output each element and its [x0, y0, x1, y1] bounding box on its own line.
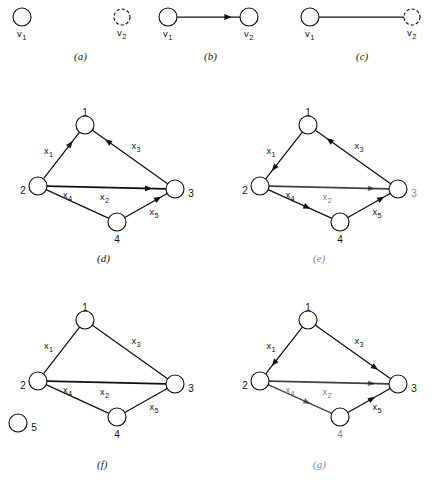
vertex-label-g-n1: 1: [305, 302, 311, 313]
vertex-label-g-n2: 2: [242, 380, 248, 391]
caption-g: (g): [313, 458, 326, 470]
arrowhead-g-x4: [303, 398, 311, 404]
edge-label-e-x5: x5: [372, 207, 381, 220]
vertex-label-f-n3: 3: [188, 383, 194, 394]
caption-b: (b): [204, 50, 217, 62]
vertex-f-n3: [166, 375, 184, 393]
edge-label-g-x4: x4: [285, 385, 294, 398]
edge-label-f-x5: x5: [149, 402, 158, 415]
edge-f-x5: [125, 389, 166, 413]
edge-d-x3: [93, 131, 168, 184]
panel-f: x1x3x2x4x512345: [9, 302, 194, 440]
vertex-a-v1: [13, 8, 31, 26]
arrowhead-g-x2: [368, 380, 375, 386]
edge-label-e-x2: x2: [322, 192, 331, 205]
vertex-b-v1: [159, 8, 177, 26]
vertex-e-n1: [299, 116, 317, 134]
edge-label-f-x3: x3: [131, 336, 140, 349]
edge-label-f-x4: x4: [63, 385, 72, 398]
vertex-e-n2: [251, 177, 269, 195]
vertex-label-d-n1: 1: [82, 107, 88, 118]
vertex-g-n3: [389, 375, 407, 393]
edge-label-e-x1: x1: [266, 146, 275, 159]
vertex-b-v2: [240, 8, 258, 26]
edge-label-g-x3: x3: [354, 336, 363, 349]
arrowhead-e-x3: [327, 138, 335, 145]
vertex-label-c-v2: v2: [407, 27, 416, 41]
vertex-e-n3: [389, 180, 407, 198]
vertex-label-g-n3: 3: [411, 383, 417, 394]
panel-e: x1x3x2x4x51234: [242, 107, 417, 245]
vertex-label-f-n4: 4: [114, 429, 120, 440]
vertex-f-n5: [9, 414, 27, 432]
vertex-label-e-n3: 3: [411, 188, 417, 199]
vertex-label-g-n4: 4: [337, 429, 343, 440]
edge-g-x3: [316, 326, 391, 379]
edge-label-f-x1: x1: [44, 341, 53, 354]
vertex-label-e-n1: 1: [305, 107, 311, 118]
panel-d: x1x3x2x4x51234: [20, 107, 194, 245]
arrowhead-b-v1-v2: [224, 14, 231, 20]
panel-a: v1v2: [13, 8, 130, 42]
vertex-a-v2: [114, 9, 130, 25]
vertex-f-n4: [108, 408, 126, 426]
vertex-label-a-v1: v1: [17, 28, 26, 42]
vertex-f-n2: [29, 372, 47, 390]
vertex-g-n2: [251, 372, 269, 390]
figure-root: v1v2v1v2v1v2x1x3x2x4x51234x1x3x2x4x51234…: [0, 0, 437, 488]
edge-f-x3: [93, 326, 168, 379]
arrowhead-d-x3: [105, 139, 113, 146]
vertex-label-d-n3: 3: [188, 188, 194, 199]
vertex-label-c-v1: v1: [305, 28, 314, 42]
arrowhead-d-x5: [154, 197, 162, 203]
edge-label-g-x2: x2: [322, 387, 331, 400]
vertex-label-f-n2: 2: [20, 380, 26, 391]
edge-label-e-x4: x4: [285, 190, 294, 203]
vertex-f-n1: [76, 311, 94, 329]
vertex-d-n4: [108, 213, 126, 231]
vertex-label-d-n4: 4: [114, 234, 120, 245]
vertex-d-n1: [76, 116, 94, 134]
edge-label-d-x2: x2: [100, 192, 109, 205]
vertex-d-n2: [29, 177, 47, 195]
vertex-c-v1: [301, 8, 319, 26]
vertex-g-n1: [299, 311, 317, 329]
arrowhead-d-x1: [66, 141, 73, 148]
vertex-label-e-n4: 4: [337, 234, 343, 245]
edge-label-g-x5: x5: [372, 402, 381, 415]
vertex-label-f-n1: 1: [82, 302, 88, 313]
panel-g: x1x3x2x4x51234: [242, 302, 417, 440]
edge-f-x2: [47, 381, 165, 384]
caption-f: (f): [97, 458, 107, 470]
edge-label-d-x3: x3: [131, 141, 140, 154]
arrowhead-g-x3: [370, 363, 378, 370]
vertex-label-e-n2: 2: [242, 185, 248, 196]
vertex-label-a-v2: v2: [117, 27, 126, 41]
arrowhead-e-x4: [303, 203, 311, 209]
vertex-g-n4: [331, 408, 349, 426]
edge-label-e-x3: x3: [354, 141, 363, 154]
panel-c: v1v2: [301, 8, 420, 42]
caption-c: (c): [356, 50, 368, 62]
graph-canvas: v1v2v1v2v1v2x1x3x2x4x51234x1x3x2x4x51234…: [0, 0, 437, 488]
vertex-e-n4: [331, 213, 349, 231]
panel-b: v1v2: [159, 8, 258, 42]
caption-d: (d): [97, 252, 110, 264]
edge-label-f-x2: x2: [100, 387, 109, 400]
vertex-d-n3: [166, 180, 184, 198]
caption-e: (e): [313, 252, 325, 264]
vertex-label-f-n5: 5: [31, 422, 37, 433]
edge-label-g-x1: x1: [266, 341, 275, 354]
vertex-c-v2: [404, 9, 420, 25]
edge-label-d-x1: x1: [44, 146, 53, 159]
caption-a: (a): [74, 50, 87, 62]
edge-label-d-x4: x4: [63, 190, 72, 203]
vertex-label-b-v1: v1: [163, 28, 172, 42]
edge-label-d-x5: x5: [149, 207, 158, 220]
vertex-label-b-v2: v2: [244, 28, 253, 42]
arrowhead-e-x5: [377, 197, 385, 203]
arrowhead-d-x2: [145, 185, 152, 191]
vertex-label-d-n2: 2: [20, 185, 26, 196]
arrowhead-e-x2: [368, 185, 375, 191]
